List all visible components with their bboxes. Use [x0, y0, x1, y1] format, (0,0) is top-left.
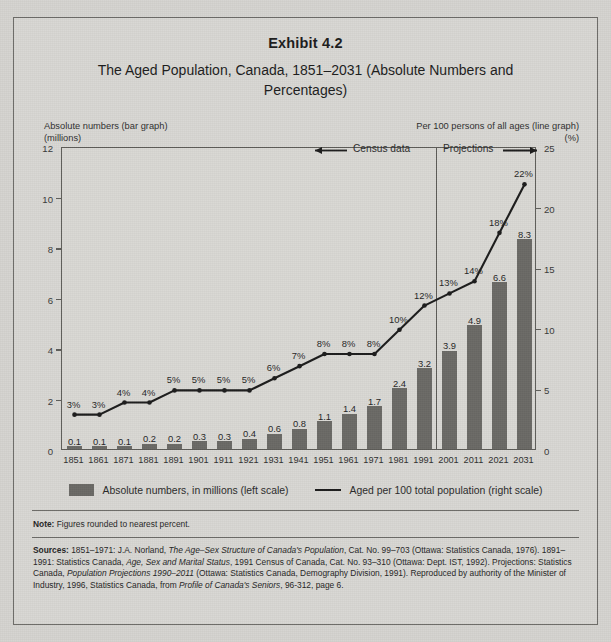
x-axis-label: 1991	[413, 455, 433, 465]
x-axis-label: 1961	[338, 455, 358, 465]
sources-italic3: Population Projections 1990–2011	[67, 568, 194, 578]
x-axis-label: 2011	[464, 455, 484, 465]
x-axis-label: 1871	[113, 455, 133, 465]
x-axis-label: 1971	[363, 455, 383, 465]
x-axis-label: 1951	[313, 455, 333, 465]
left-axis-tick-label: 6	[48, 294, 53, 305]
divider-rule-top	[32, 510, 579, 511]
left-axis-tick-label: 4	[48, 345, 53, 356]
line-swatch-icon	[315, 489, 341, 492]
chart-legend: Absolute numbers, in millions (left scal…	[14, 484, 597, 496]
chart-area: 024681012 0510152025 0.10.10.10.20.20.30…	[14, 18, 599, 626]
sources-italic2: Age, Sex and Marital Status	[126, 557, 230, 567]
x-axis-label: 1901	[188, 455, 208, 465]
left-axis-tick-label: 10	[42, 193, 53, 204]
sources-italic4: Profile of Canada's Seniors	[179, 580, 280, 590]
legend-label-line: Aged per 100 total population (right sca…	[350, 485, 543, 496]
x-axis-label: 2031	[513, 455, 533, 465]
x-axis-label: 1941	[288, 455, 308, 465]
legend-label-bars: Absolute numbers, in millions (left scal…	[103, 485, 289, 496]
left-axis-tick-label: 2	[48, 395, 53, 406]
right-axis-tick-label: 10	[544, 324, 555, 335]
sources-label: Sources:	[33, 545, 69, 555]
x-axis-label: 2001	[438, 455, 458, 465]
legend-item-bars: Absolute numbers, in millions (left scal…	[69, 484, 289, 496]
note-text: Figures rounded to nearest percent.	[57, 519, 190, 529]
right-axis-tick-label: 0	[544, 446, 549, 457]
left-axis-tick-label: 8	[48, 244, 53, 255]
x-axis-label: 1851	[63, 455, 83, 465]
x-axis-label: 1921	[238, 455, 258, 465]
sources-part1: 1851–1971: J.A. Norland,	[71, 545, 168, 555]
sources-italic1: The Age–Sex Structure of Canada's Popula…	[168, 545, 343, 555]
x-axis-label: 1931	[263, 455, 283, 465]
right-axis-tick-label: 5	[544, 385, 549, 396]
right-axis-tick-label: 20	[544, 203, 555, 214]
x-axis-label: 1881	[138, 455, 158, 465]
bar-swatch-icon	[69, 484, 94, 496]
x-axis-label: 1891	[163, 455, 183, 465]
x-axis-label: 1911	[214, 455, 234, 465]
sources-part5: , 96-312, page 6.	[280, 580, 343, 590]
left-axis-tick-label: 0	[48, 446, 53, 457]
note-label: Note:	[33, 519, 54, 529]
legend-item-line: Aged per 100 total population (right sca…	[315, 485, 543, 496]
exhibit-panel: Exhibit 4.2 The Aged Population, Canada,…	[13, 17, 598, 625]
x-axis-label: 1981	[388, 455, 408, 465]
annotation-arrows	[62, 148, 537, 451]
left-axis-tick-label: 12	[42, 143, 53, 154]
x-axis-label: 2021	[488, 455, 508, 465]
note-block: Note: Figures rounded to nearest percent…	[33, 519, 580, 531]
plot-frame: 024681012 0510152025 0.10.10.10.20.20.30…	[61, 147, 536, 450]
right-axis-tick-label: 15	[544, 264, 555, 275]
right-axis-tick-label: 25	[544, 143, 555, 154]
sources-block: Sources: 1851–1971: J.A. Norland, The Ag…	[33, 545, 580, 591]
divider-rule-bottom	[32, 537, 579, 538]
x-axis-label: 1861	[88, 455, 108, 465]
